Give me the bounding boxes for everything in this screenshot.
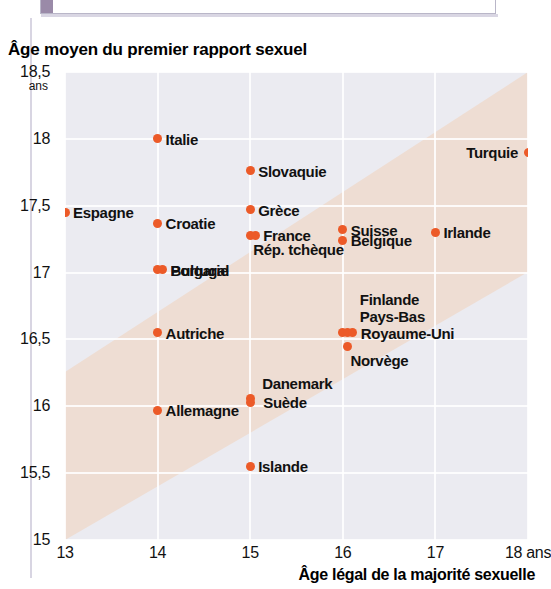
y-tick-label: 15: [33, 531, 50, 549]
x-tick-label: 17: [427, 544, 444, 562]
y-tick-label: 16,5: [20, 330, 50, 348]
x-tick-label: 15: [242, 544, 259, 562]
data-point[interactable]: [246, 462, 255, 471]
data-point-label: Espagne: [73, 205, 133, 220]
data-point-label: Bulgarie: [171, 262, 229, 277]
x-gridline: [434, 72, 436, 540]
data-point[interactable]: [251, 231, 260, 240]
data-point[interactable]: [153, 406, 162, 415]
x-gridline: [342, 72, 344, 540]
data-point-label: Irlande: [443, 225, 490, 240]
data-point[interactable]: [524, 148, 529, 157]
y-axis-unit: ans: [29, 79, 48, 93]
data-point-label: Autriche: [166, 325, 224, 340]
y-gridline: [65, 539, 528, 540]
banner-accent-bar: [41, 0, 53, 14]
data-point[interactable]: [65, 208, 70, 217]
x-axis-ticks: 131415161718 ans: [65, 544, 543, 566]
data-point-label: Turquie: [466, 145, 518, 160]
banner-shadow: [41, 14, 498, 17]
data-point[interactable]: [343, 342, 352, 351]
data-point-label: Norvège: [350, 353, 408, 368]
data-point[interactable]: [246, 205, 255, 214]
data-point-label: Suède: [263, 395, 307, 410]
data-point-label: Croatie: [166, 216, 216, 231]
data-point-label: Royaume-Uni: [361, 325, 454, 340]
data-point-label: Belgique: [351, 233, 412, 248]
y-axis-ticks: 18,51817,51716,51615,515ans: [0, 72, 58, 540]
data-point-label: Slovaquie: [258, 163, 326, 178]
y-tick-label: 17: [33, 264, 50, 282]
data-point[interactable]: [246, 398, 255, 407]
x-tick-label: 13: [56, 544, 73, 562]
y-gridline: [65, 338, 528, 340]
y-tick-label: 17,5: [20, 197, 50, 215]
data-point-label: Grèce: [258, 202, 299, 217]
scatter-plot-area: EspagneItalieCroatiePortugalBulgarieAutr…: [65, 72, 528, 540]
x-gridline: [527, 72, 528, 540]
x-tick-label: 18 ans: [505, 544, 551, 562]
data-point-label: Allemagne: [166, 403, 239, 418]
y-gridline: [65, 72, 528, 73]
x-gridline: [65, 72, 66, 540]
data-point[interactable]: [431, 228, 440, 237]
chart-title: Âge moyen du premier rapport sexuel: [8, 40, 307, 60]
y-tick-label: 16: [33, 397, 50, 415]
x-axis-label: Âge légal de la majorité sexuelle: [299, 566, 535, 584]
y-tick-label: 18: [33, 130, 50, 148]
data-point-label: Italie: [166, 131, 198, 146]
y-tick-label: 15,5: [20, 464, 50, 482]
x-tick-label: 16: [334, 544, 351, 562]
headline-banner: 15-16 ANS : L'ÂGE DU PREMIER RAPPORT SEX…: [40, 0, 496, 14]
data-point-label: Pays-Bas: [360, 309, 425, 324]
data-point-label: Islande: [258, 459, 308, 474]
y-gridline: [65, 138, 528, 140]
data-point-label: Rép. tchèque: [253, 242, 344, 257]
data-point[interactable]: [153, 219, 162, 228]
data-point-label: Finlande: [360, 292, 419, 307]
data-point-label: Danemark: [262, 376, 332, 391]
x-tick-label: 14: [149, 544, 166, 562]
y-gridline: [65, 272, 528, 274]
